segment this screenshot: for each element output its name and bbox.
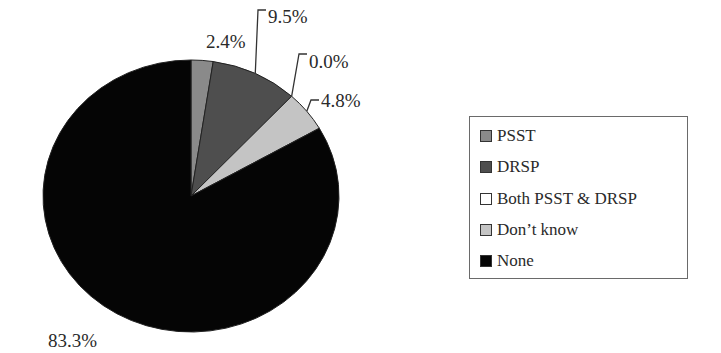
- legend-item-none: None: [480, 250, 534, 272]
- legend-label: PSST: [497, 126, 536, 146]
- legend-item-drsp: DRSP: [480, 156, 540, 178]
- swatch-none: [480, 255, 492, 267]
- swatch-both: [480, 193, 492, 205]
- legend-label: Both PSST & DRSP: [497, 189, 637, 209]
- legend-label: Don’t know: [497, 220, 578, 240]
- legend-item-both: Both PSST & DRSP: [480, 188, 637, 210]
- swatch-drsp: [480, 161, 492, 173]
- legend-item-psst: PSST: [480, 125, 536, 147]
- legend-label: DRSP: [497, 157, 540, 177]
- swatch-psst: [480, 130, 492, 142]
- legend-item-dont-know: Don’t know: [480, 219, 578, 241]
- label-psst: 2.4%: [206, 31, 246, 52]
- label-dont-know: 4.8%: [321, 90, 361, 111]
- pie-slices: [43, 60, 339, 332]
- leader-line: [255, 10, 266, 73]
- leader-line: [292, 54, 307, 96]
- legend: PSST DRSP Both PSST & DRSP Don’t know No…: [469, 116, 688, 279]
- swatch-dont-know: [480, 224, 492, 236]
- label-both: 0.0%: [309, 51, 349, 72]
- label-none: 83.3%: [48, 330, 97, 351]
- leader-line: [307, 100, 319, 111]
- legend-label: None: [497, 251, 534, 271]
- label-drsp: 9.5%: [268, 6, 308, 27]
